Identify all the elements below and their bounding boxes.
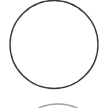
vector-drawing — [0, 0, 106, 108]
canvas-background — [0, 0, 106, 108]
drawing-canvas: Minimal line drawing: a large thin circl… — [0, 0, 106, 108]
